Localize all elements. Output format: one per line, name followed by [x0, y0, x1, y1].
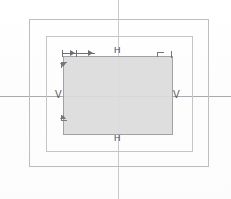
left-edge-arrow-cap-lower	[60, 115, 66, 119]
left-edge-arrow-cap-upper	[60, 63, 66, 67]
label-top-h: H	[114, 46, 121, 55]
top-right-end-tick	[171, 51, 172, 58]
label-bottom-h: H	[114, 134, 121, 143]
dimension-arrow-start-tick	[62, 50, 63, 57]
content-box	[63, 56, 173, 135]
label-left-v: V	[55, 90, 62, 99]
diagram-canvas: H H V V	[0, 0, 231, 199]
dimension-arrow-head-end	[88, 50, 93, 56]
top-right-corner-tick	[157, 52, 164, 53]
top-right-corner-tick-vertical	[157, 52, 158, 57]
dimension-arrow-mid-tick	[76, 50, 77, 57]
horizontal-dimension-arrow	[62, 50, 95, 57]
dimension-arrow-head-mid	[70, 50, 75, 56]
label-right-v: V	[173, 90, 180, 99]
